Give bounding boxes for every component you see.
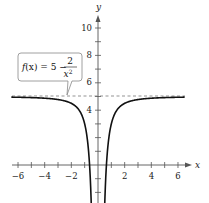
y-tick-label: 4: [87, 105, 92, 115]
x-tick-label: −4: [38, 171, 51, 181]
y-tick-label: 10: [81, 23, 92, 33]
x-tick-label: 2: [122, 171, 127, 181]
callout-numerator: 2: [67, 56, 73, 66]
curve-left-branch: [11, 97, 92, 203]
y-axis-arrow-icon: [96, 15, 101, 22]
x-tick-label: 4: [149, 171, 154, 181]
y-tick-label: 8: [87, 50, 92, 60]
callout-lhs: f(x) = 5 −: [21, 62, 67, 72]
y-tick-label: 6: [87, 77, 92, 87]
x-tick-label: −2: [65, 171, 78, 181]
x-axis-label: x: [195, 160, 200, 170]
y-tick-labels: 10 8 6 4: [81, 23, 92, 115]
x-tick-label: 6: [175, 171, 180, 181]
function-callout: f(x) = 5 − 2 x2: [18, 53, 82, 95]
y-axis-label: y: [95, 2, 102, 12]
x-tick-labels: −6 −4 −2 2 4 6: [12, 171, 181, 181]
curve-right-branch: [104, 97, 185, 203]
x-axis-arrow-icon: [185, 163, 192, 168]
x-tick-label: −6: [12, 171, 25, 181]
function-graph: −6 −4 −2 2 4 6 10 8 6 4 x y f(x) = 5 − 2…: [0, 0, 209, 203]
